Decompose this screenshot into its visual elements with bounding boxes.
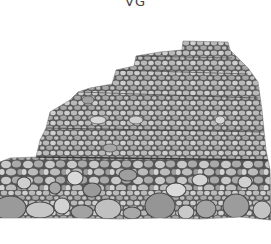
stone-wall-illustration [0,0,271,244]
